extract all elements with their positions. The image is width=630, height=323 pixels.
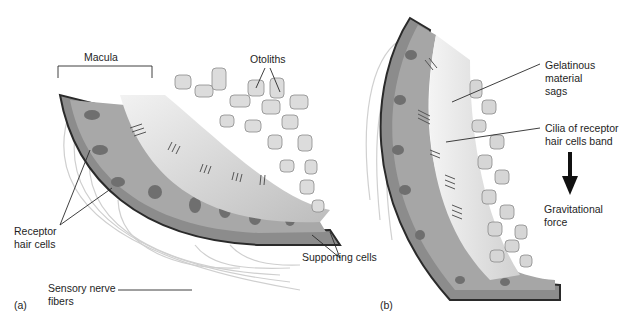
- panel-b-label: (b): [380, 299, 393, 312]
- macula-label: Macula: [84, 51, 118, 64]
- supporting-cells-label: Supporting cells: [302, 251, 377, 264]
- gravity-arrow-icon: [562, 152, 578, 195]
- panel-a-illustration: [58, 66, 340, 290]
- cilia-band-label: Cilia of receptor hair cells band: [545, 122, 619, 148]
- sensory-nerve-fibers-label: Sensory nerve fibers: [48, 282, 116, 308]
- gelatinous-material-label: Gelatinous material sags: [545, 59, 595, 98]
- otolith-organ-illustration: [0, 0, 630, 323]
- gravitational-force-label: Gravitational force: [544, 203, 603, 229]
- panel-a-label: (a): [14, 299, 27, 312]
- otoliths-label: Otoliths: [250, 53, 286, 66]
- receptor-hair-cells-label: Receptor hair cells: [14, 225, 57, 251]
